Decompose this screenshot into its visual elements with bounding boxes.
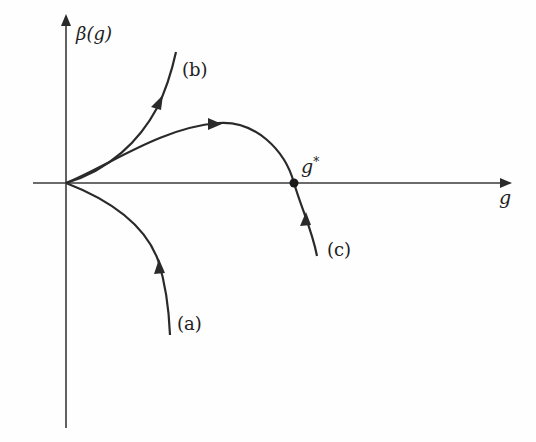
curve-c-bottom-arrow-icon (300, 212, 311, 226)
diagram-graphics (0, 0, 536, 442)
curve-b (66, 52, 176, 183)
fixed-point-star: * (313, 155, 319, 169)
y-axis-label: β(g) (76, 23, 112, 44)
x-axis-label: g (499, 186, 511, 208)
curve-b-label: (b) (182, 59, 208, 80)
curve-c-top-arrow-icon (208, 118, 222, 130)
curve-c-label: (c) (327, 239, 351, 260)
curve-c (66, 123, 317, 256)
curve-a (66, 183, 170, 335)
curve-a-arrow-icon (154, 259, 165, 274)
curve-b-arrow-icon (151, 95, 163, 110)
rg-flow-diagram: β(g) g g* (b) (c) (a) (0, 0, 536, 442)
curve-a-label: (a) (177, 313, 202, 334)
fixed-point-marker (290, 179, 299, 188)
fixed-point-label: g* (301, 155, 319, 177)
fixed-point-letter: g (301, 155, 313, 177)
